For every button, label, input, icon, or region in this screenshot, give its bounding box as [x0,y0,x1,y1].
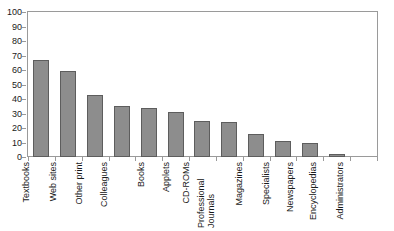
x-axis-ticks [28,157,377,161]
bar-slot [135,12,162,157]
x-axis-tick-mark [350,157,351,161]
y-axis-tick-label: 70 [0,51,22,60]
x-axis-tick-label: Administrators [335,162,345,220]
x-axis-tick-mark [109,157,110,161]
bar [168,112,184,157]
y-axis-tick-label: 10 [0,138,22,147]
x-axis-tick-label: Books [136,162,146,187]
y-axis-tick-mark [22,99,26,100]
x-axis-label-slot: Administrators [350,162,377,231]
bar-slot [162,12,189,157]
bar-slot [28,12,55,157]
y-axis-tick-label: 0 [0,153,22,162]
y-axis-tick-mark [22,128,26,129]
x-axis-tick-mark [82,157,83,161]
x-axis-tick-label: Professional Journals [196,162,216,228]
y-axis-tick-label: 30 [0,109,22,118]
bar [60,71,76,157]
y-axis-tick-label: 90 [0,22,22,31]
x-axis-tick-mark [135,157,136,161]
bar [221,122,237,157]
x-axis-tick-mark [377,157,378,161]
y-axis-tick-label: 20 [0,124,22,133]
x-axis-labels: TextbooksWeb sitesOther printColleaguesB… [28,162,377,231]
bar [275,141,291,157]
x-axis-tick-mark [189,157,190,161]
x-axis-tick-label: Textbooks [21,162,31,203]
bar-slot [216,12,243,157]
y-axis-tick-label: 40 [0,95,22,104]
x-axis-tick-label: Magazines [234,162,244,206]
bar-slot [323,12,350,157]
y-axis-tick-mark [22,114,26,115]
x-axis-tick-mark [296,157,297,161]
bar [33,60,49,157]
y-axis-tick-label: 80 [0,37,22,46]
x-axis-tick-label: Colleagues [99,162,109,207]
y-axis-tick-mark [22,12,26,13]
x-axis-tick-mark [243,157,244,161]
y-axis-tick-label: 60 [0,66,22,75]
bar [248,134,264,157]
bar-slot [55,12,82,157]
scan-artifact-strip: . [0,0,394,3]
bar [114,106,130,157]
bar-chart: . 1009080706050403020100 TextbooksWeb si… [0,0,394,231]
bar-slot [350,12,377,157]
bar [194,121,210,157]
x-axis-tick-mark [216,157,217,161]
y-axis-tick-label: 50 [0,80,22,89]
bar-slot [296,12,323,157]
bar-slot [82,12,109,157]
bar-slot [270,12,297,157]
y-axis-tick-mark [22,41,26,42]
bar [141,108,157,157]
x-axis-tick-label: Applets [161,162,171,192]
x-axis-tick-mark [55,157,56,161]
x-axis-tick-label: Other print [74,162,84,205]
x-axis-tick-label: CD-ROMs [182,162,192,204]
y-axis-tick-label: 100 [0,8,22,17]
x-axis-tick-label: Web sites [49,162,59,201]
y-axis-tick-mark [22,70,26,71]
x-axis-tick-label: Encyclopedias [308,162,318,220]
y-axis: 1009080706050403020100 [0,0,22,231]
bar-slot [243,12,270,157]
x-axis-tick-mark [28,157,29,161]
x-axis-label-slot: Colleagues [109,162,136,231]
y-axis-tick-mark [22,85,26,86]
x-axis-tick-mark [270,157,271,161]
x-axis-tick-label: Newspapers [285,162,295,212]
bar-slot [109,12,136,157]
y-axis-tick-mark [22,157,26,158]
y-axis-tick-mark [22,143,26,144]
x-axis-label-slot: Books [135,162,162,231]
y-axis-tick-mark [22,56,26,57]
x-axis-tick-mark [323,157,324,161]
bar [87,95,103,157]
x-axis-tick-mark [162,157,163,161]
x-axis-tick-label: Specialists [262,162,272,205]
bar-slot [189,12,216,157]
bar [302,143,318,158]
bar-series [28,12,377,157]
y-axis-tick-mark [22,27,26,28]
